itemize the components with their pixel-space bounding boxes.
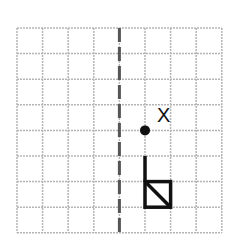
point-x-dot: [140, 125, 150, 135]
reflection-grid-diagram: [0, 0, 227, 247]
flag-diagonal: [145, 182, 171, 208]
point-x-label: X: [157, 105, 170, 125]
